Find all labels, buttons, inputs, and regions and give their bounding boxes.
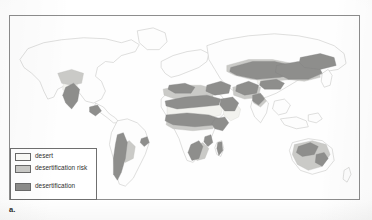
legend-label-desert: desert	[35, 152, 53, 159]
legend-label-desertification-risk: desertification risk	[35, 164, 96, 171]
legend-item-desertification-risk: desertification risk	[15, 164, 96, 181]
legend-item-desert: desert	[15, 152, 96, 163]
figure-caption: a.	[9, 205, 16, 214]
legend-swatch-desertification	[15, 183, 31, 191]
legend-label-desertification: desertification	[35, 182, 75, 189]
legend-swatch-desert	[15, 153, 31, 161]
map-legend: desert desertification risk desertificat…	[10, 148, 97, 200]
legend-item-desertification: desertification	[15, 182, 96, 193]
legend-swatch-desertification-risk	[15, 165, 31, 173]
figure-root: .cl { fill:#fdfdfd; stroke:#c4c4c2; stro…	[0, 0, 372, 220]
